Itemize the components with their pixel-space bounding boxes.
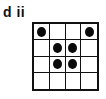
grid-cell [34,40,50,56]
grid-cell [66,40,82,56]
dot-icon [85,27,94,37]
grid-cell [34,73,50,89]
grid-cell [81,40,97,56]
grid-cell [81,57,97,73]
dot-icon [53,43,62,53]
grid-cell [50,57,66,73]
grid-cell [66,57,82,73]
dot-icon [53,59,62,69]
grid-cell [34,57,50,73]
grid-cell [81,73,97,89]
grid-cell [50,24,66,40]
dot-grid [32,22,99,91]
grid-cell [34,24,50,40]
grid-cell [50,73,66,89]
panel-label: d ii [3,5,25,19]
grid-cell [50,40,66,56]
dot-icon [68,59,77,69]
grid-cell [81,24,97,40]
grid-cell [66,24,82,40]
grid-cell [66,73,82,89]
dot-icon [37,27,46,37]
dot-icon [68,43,77,53]
